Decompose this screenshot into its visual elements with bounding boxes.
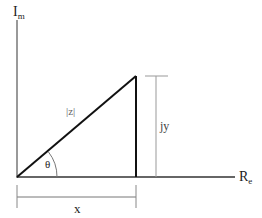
hypotenuse-label: |z| bbox=[66, 106, 75, 117]
imaginary-axis-label-sub: m bbox=[18, 11, 25, 21]
hypotenuse-line bbox=[17, 76, 136, 177]
angle-label: θ bbox=[45, 159, 50, 170]
real-axis-label-main: R bbox=[239, 169, 248, 184]
vertical-side-label: jy bbox=[160, 120, 169, 132]
real-axis-label: Re bbox=[239, 170, 252, 186]
imaginary-axis-label: Im bbox=[13, 5, 25, 21]
horizontal-side-label: x bbox=[74, 202, 81, 215]
real-axis-label-sub: e bbox=[248, 176, 252, 186]
impedance-diagram bbox=[0, 0, 262, 218]
